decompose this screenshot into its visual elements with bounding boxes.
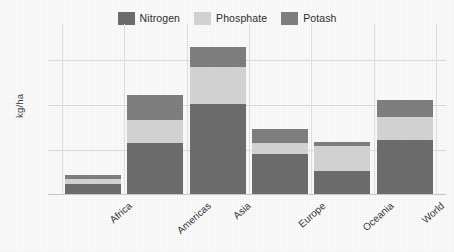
gridline-vertical [249, 24, 250, 195]
legend-swatch-potash-icon [281, 12, 298, 25]
x-axis-baseline [48, 194, 446, 195]
plot-area: 050100150 [62, 38, 436, 195]
legend-label-potash: Potash [303, 12, 336, 25]
bar-segment-phosphate[interactable] [377, 117, 433, 140]
gridline-horizontal [48, 60, 446, 61]
legend-label-nitrogen: Nitrogen [140, 12, 181, 25]
bar-segment-nitrogen[interactable] [127, 143, 183, 195]
bar-segment-phosphate[interactable] [190, 67, 246, 104]
bar-stack-asia[interactable] [190, 47, 246, 195]
legend-item-phosphate[interactable]: Phosphate [194, 12, 267, 25]
legend-swatch-phosphate-icon [194, 12, 211, 25]
legend-label-phosphate: Phosphate [216, 12, 267, 25]
y-axis-title: kg/ha [14, 94, 25, 118]
gridline-vertical [374, 24, 375, 195]
bar-segment-potash[interactable] [252, 129, 308, 143]
gridline-vertical [62, 24, 63, 195]
bar-segment-potash[interactable] [190, 47, 246, 67]
bar-segment-nitrogen[interactable] [252, 154, 308, 195]
x-axis-tick-label-africa: Africa [108, 200, 134, 225]
bar-stack-oceania[interactable] [314, 142, 370, 195]
bar-segment-nitrogen[interactable] [190, 104, 246, 196]
bar-segment-phosphate[interactable] [314, 146, 370, 171]
x-axis-tick-label-asia: Asia [231, 200, 253, 221]
legend-item-potash[interactable]: Potash [281, 12, 336, 25]
bar-segment-phosphate[interactable] [252, 143, 308, 154]
bar-stack-world[interactable] [377, 100, 433, 195]
x-axis-tick-label-oceania: Oceania [360, 200, 395, 233]
bar-segment-nitrogen[interactable] [377, 140, 433, 195]
bar-stack-europe[interactable] [252, 129, 308, 195]
x-axis-tick-label-world: World [419, 200, 446, 226]
gridline-vertical [187, 24, 188, 195]
bar-stack-americas[interactable] [127, 95, 183, 195]
stacked-bar-chart: Nitrogen Phosphate Potash kg/ha 05010015… [0, 0, 454, 252]
legend-swatch-nitrogen-icon [118, 12, 135, 25]
bar-segment-potash[interactable] [127, 95, 183, 120]
chart-legend: Nitrogen Phosphate Potash [0, 9, 454, 27]
legend-item-nitrogen[interactable]: Nitrogen [118, 12, 181, 25]
bar-segment-nitrogen[interactable] [314, 171, 370, 195]
gridline-vertical [436, 24, 437, 195]
gridline-vertical [124, 24, 125, 195]
x-axis-tick-label-americas: Americas [174, 200, 212, 236]
bar-stack-africa[interactable] [65, 175, 121, 195]
bar-segment-potash[interactable] [377, 100, 433, 117]
gridline-vertical [311, 24, 312, 195]
bar-segment-phosphate[interactable] [127, 120, 183, 143]
x-axis-tick-label-europe: Europe [296, 200, 327, 230]
